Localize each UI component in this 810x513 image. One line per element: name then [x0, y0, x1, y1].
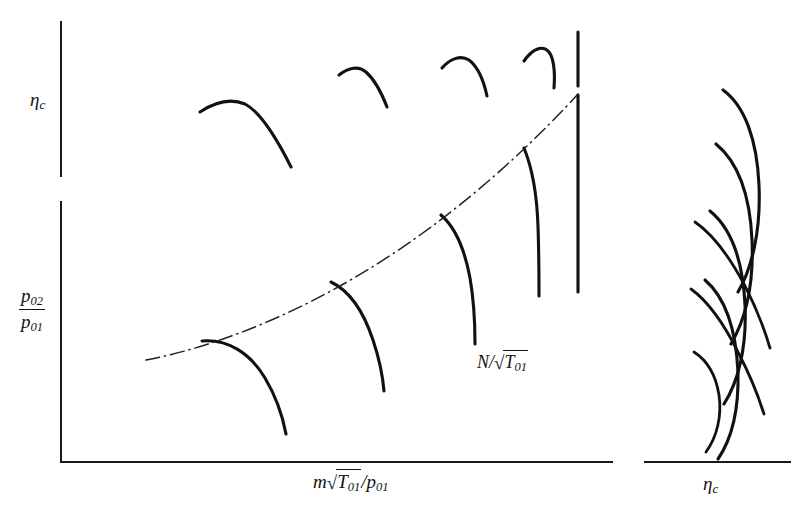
lower-y-axis-label: p02 p01 [19, 286, 45, 335]
pressure-ratio-numerator: p02 [19, 286, 45, 310]
right-eta-subscript: c [712, 481, 718, 496]
massflow-p01-symbol: p [367, 471, 377, 492]
p01-symbol: p [21, 311, 31, 332]
speed-radicand: T01 [503, 350, 528, 372]
sqrt-icon-speed: √ [494, 352, 504, 373]
p02-symbol: p [21, 285, 31, 306]
pressure-ratio-denominator: p01 [19, 310, 45, 334]
T01-symbol: T [337, 471, 348, 492]
right-panel-curves [691, 90, 770, 459]
speed-T01-subscript: 01 [514, 360, 527, 374]
lower-pressure-ratio-curves [202, 95, 578, 434]
efficiency-speed-line-3 [442, 58, 487, 96]
surge-line-group [146, 94, 578, 360]
massflow-p01-subscript: 01 [376, 480, 389, 494]
efficiency-speed-line-2 [339, 68, 387, 107]
axes-group [61, 22, 790, 462]
p01-subscript: 01 [31, 320, 44, 334]
T01-subscript: 01 [348, 480, 361, 494]
surge-line [146, 94, 578, 360]
right-x-axis-label: ηc [703, 474, 718, 495]
sqrt-icon: √ [327, 472, 337, 493]
eta-subscript: c [39, 97, 45, 112]
compressor-characteristic-figure: ηc p02 p01 m√T01/p01 N/√T01 ηc [0, 0, 810, 513]
efficiency-speed-line-1 [200, 101, 291, 167]
massflow-radicand: T01 [336, 469, 361, 492]
pressure-speed-line-3 [441, 215, 475, 344]
right-efficiency-curve-1 [723, 90, 759, 292]
right-speed-line-3 [694, 352, 720, 452]
chart-canvas [0, 0, 810, 513]
massflow-symbol: m [313, 471, 327, 492]
speed-line-annotation: N/√T01 [477, 352, 528, 374]
pressure-speed-line-2 [331, 282, 384, 391]
x-axis-label: m√T01/p01 [313, 472, 389, 494]
upper-y-axis-label: ηc [30, 90, 45, 111]
pressure-speed-line-4 [524, 148, 539, 296]
upper-efficiency-curves [200, 32, 578, 167]
p02-subscript: 02 [31, 294, 44, 308]
speed-symbol: N [477, 352, 489, 372]
speed-T01-symbol: T [504, 352, 514, 372]
efficiency-speed-line-4 [524, 48, 554, 88]
pressure-speed-line-1 [202, 341, 286, 434]
pressure-ratio-fraction: p02 p01 [19, 286, 45, 335]
